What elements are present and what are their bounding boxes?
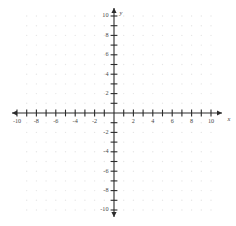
grid-dot xyxy=(123,132,124,133)
grid-dot xyxy=(191,132,192,133)
grid-dot xyxy=(201,161,202,162)
grid-dot xyxy=(26,103,27,104)
grid-dot xyxy=(142,54,143,55)
grid-dot xyxy=(84,25,85,26)
grid-dot xyxy=(133,25,134,26)
grid-dot xyxy=(26,54,27,55)
grid-dot xyxy=(26,132,27,133)
grid-dot xyxy=(55,151,56,152)
grid-dot xyxy=(162,83,163,84)
grid-dot xyxy=(181,180,182,181)
grid-dot xyxy=(26,64,27,65)
grid-dot xyxy=(84,74,85,75)
grid-dot xyxy=(152,161,153,162)
grid-dot xyxy=(94,93,95,94)
grid-dot xyxy=(210,200,211,201)
grid-dot xyxy=(65,74,66,75)
grid-dot xyxy=(152,171,153,172)
grid-dot xyxy=(36,132,37,133)
grid-dot xyxy=(65,161,66,162)
grid-dot xyxy=(142,35,143,36)
grid-dot xyxy=(36,64,37,65)
grid-dot xyxy=(181,151,182,152)
grid-dot xyxy=(162,64,163,65)
grid-dot xyxy=(26,83,27,84)
grid-dot xyxy=(55,15,56,16)
grid-dot xyxy=(133,54,134,55)
grid-dot xyxy=(26,209,27,210)
grid-dot xyxy=(55,35,56,36)
grid-dot xyxy=(181,209,182,210)
grid-dot xyxy=(65,141,66,142)
grid-dot xyxy=(172,180,173,181)
grid-dot xyxy=(84,161,85,162)
grid-dot xyxy=(84,180,85,181)
grid-dot xyxy=(94,35,95,36)
grid-dot xyxy=(201,141,202,142)
grid-dot xyxy=(162,74,163,75)
grid-dot xyxy=(133,141,134,142)
grid-dot xyxy=(94,151,95,152)
grid-dot xyxy=(55,209,56,210)
grid-dot xyxy=(181,141,182,142)
grid-dot xyxy=(65,200,66,201)
y-axis-tick-label: -10 xyxy=(100,205,108,212)
grid-dot xyxy=(55,44,56,45)
grid-dot xyxy=(84,44,85,45)
grid-dot xyxy=(55,54,56,55)
grid-dot xyxy=(36,171,37,172)
grid-dot xyxy=(201,44,202,45)
grid-dot xyxy=(142,132,143,133)
grid-dot xyxy=(65,151,66,152)
grid-dot xyxy=(65,54,66,55)
grid-dot xyxy=(123,161,124,162)
grid-dot xyxy=(191,25,192,26)
grid-dot xyxy=(210,180,211,181)
x-axis-tick-label: -2 xyxy=(92,117,97,124)
y-axis-tick-label: 2 xyxy=(105,89,108,96)
grid-dot xyxy=(104,200,105,201)
grid-dot xyxy=(162,93,163,94)
grid-dot xyxy=(172,171,173,172)
grid-dot xyxy=(142,74,143,75)
grid-dot xyxy=(45,180,46,181)
grid-dot xyxy=(210,25,211,26)
grid-dot xyxy=(181,74,182,75)
grid-dot xyxy=(84,200,85,201)
grid-dot xyxy=(26,93,27,94)
grid-dot xyxy=(26,35,27,36)
grid-dot xyxy=(55,141,56,142)
grid-dot xyxy=(172,74,173,75)
grid-dot xyxy=(123,209,124,210)
grid-dot xyxy=(94,161,95,162)
grid-dot xyxy=(84,93,85,94)
x-axis-tick-label: -8 xyxy=(34,117,39,124)
grid-dot xyxy=(152,35,153,36)
grid-dot xyxy=(210,171,211,172)
grid-dot xyxy=(123,25,124,26)
grid-dot xyxy=(142,122,143,123)
grid-dot xyxy=(201,151,202,152)
grid-dot xyxy=(191,171,192,172)
grid-dot xyxy=(201,93,202,94)
grid-dot xyxy=(75,74,76,75)
grid-dot xyxy=(123,93,124,94)
grid-dot xyxy=(94,15,95,16)
grid-dot xyxy=(142,180,143,181)
grid-dot xyxy=(142,141,143,142)
grid-dot xyxy=(210,15,211,16)
grid-dot xyxy=(75,83,76,84)
grid-dot xyxy=(152,132,153,133)
grid-dot xyxy=(172,103,173,104)
grid-dot xyxy=(152,103,153,104)
grid-dot xyxy=(75,141,76,142)
y-axis-tick-label: -6 xyxy=(103,167,108,174)
grid-dot xyxy=(172,83,173,84)
grid-dot xyxy=(65,25,66,26)
grid-dot xyxy=(94,180,95,181)
grid-dot xyxy=(123,200,124,201)
grid-dot xyxy=(181,103,182,104)
grid-dot xyxy=(45,122,46,123)
grid-dot xyxy=(191,209,192,210)
grid-dot xyxy=(201,83,202,84)
